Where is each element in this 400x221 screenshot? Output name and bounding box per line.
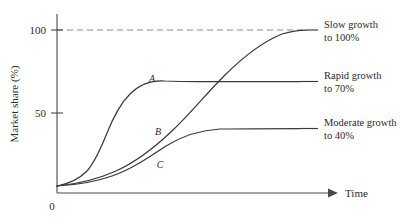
curve-label-a: A	[148, 73, 156, 84]
annotation-rapid-growth-line2: to 70%	[324, 83, 354, 94]
x-axis-title: Time	[345, 187, 368, 199]
y-tick-label-100: 100	[30, 24, 47, 36]
annotation-slow-growth-line1: Slow growth	[324, 19, 379, 30]
y-tick-label-50: 50	[35, 107, 47, 119]
annotation-slow-growth-line2: to 100%	[324, 32, 360, 43]
annotation-moderate-growth-line2: to 40%	[324, 130, 354, 141]
curve-label-c: C	[157, 159, 164, 170]
origin-tick-label-0: 0	[49, 200, 55, 212]
annotation-rapid-growth-line1: Rapid growth	[324, 70, 382, 81]
y-axis-title: Market share (%)	[8, 65, 21, 142]
chart-canvas: 100 50 0 Market share (%) Time A B C Slo…	[0, 0, 400, 221]
curve-label-b: B	[155, 126, 161, 137]
annotation-moderate-growth-line1: Moderate growth	[324, 117, 397, 128]
market-share-diffusion-chart: 100 50 0 Market share (%) Time A B C Slo…	[0, 0, 400, 221]
